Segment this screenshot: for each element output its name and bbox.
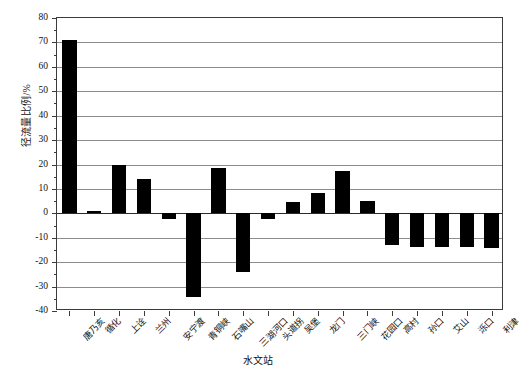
x-axis-tick: [343, 311, 344, 316]
y-axis-tick-label: 0: [22, 207, 48, 217]
x-axis-tick: [144, 311, 145, 316]
y-axis-tick-label: -10: [22, 232, 48, 242]
x-axis-title: 水文站: [0, 352, 516, 367]
x-axis-tick: [367, 311, 368, 316]
bar: [112, 165, 126, 213]
x-axis-tick: [243, 311, 244, 316]
x-axis-tick: [94, 311, 95, 316]
bar: [484, 213, 498, 248]
x-axis-category-label: 孙口: [426, 316, 446, 336]
x-axis-category-label: 艾山: [451, 316, 471, 336]
x-axis-tick: [417, 311, 418, 316]
x-axis-category-label: 石嘴山: [230, 316, 256, 342]
bar: [87, 211, 101, 213]
x-axis-category-label: 循化: [104, 316, 124, 336]
bar: [360, 201, 374, 213]
bars-layer: [57, 18, 502, 309]
bar: [286, 202, 300, 214]
bar: [385, 213, 399, 245]
x-axis-tick: [119, 311, 120, 316]
x-axis-category-label: 利津: [501, 316, 521, 336]
x-axis-tick: [492, 311, 493, 316]
x-axis-tick: [467, 311, 468, 316]
x-axis-tick: [69, 311, 70, 316]
x-axis-category-label: 三门峡: [354, 316, 380, 342]
bar: [62, 40, 76, 213]
y-axis-tick-label: 80: [22, 12, 48, 22]
y-axis-tick-label: -40: [22, 305, 48, 315]
plot-area: [56, 17, 503, 310]
bar: [236, 213, 250, 272]
bar: [211, 168, 225, 213]
x-axis-tick: [442, 311, 443, 316]
y-axis-tick: [52, 311, 57, 312]
bar: [186, 213, 200, 297]
x-axis-category-label: 青铜峡: [205, 316, 231, 342]
y-axis-tick-label: 60: [22, 61, 48, 71]
x-axis-category-label: 泺口: [476, 316, 496, 336]
y-axis-tick-label: 70: [22, 36, 48, 46]
x-axis-tick: [218, 311, 219, 316]
x-axis-category-label: 兰州: [153, 316, 173, 336]
x-axis-category-label: 高村: [402, 316, 422, 336]
x-axis-tick: [194, 311, 195, 316]
x-axis-category-label: 安宁渡: [181, 316, 207, 342]
x-axis-tick: [293, 311, 294, 316]
x-axis-tick: [392, 311, 393, 316]
y-axis-tick-label: -30: [22, 281, 48, 291]
x-axis-tick: [268, 311, 269, 316]
bar: [335, 171, 349, 213]
y-axis-tick-label: 30: [22, 134, 48, 144]
x-axis-tick: [318, 311, 319, 316]
x-axis-category-label: 上诠: [128, 316, 148, 336]
bar: [162, 213, 176, 218]
bar: [137, 179, 151, 214]
y-axis-tick-label: 10: [22, 183, 48, 193]
bar: [460, 213, 474, 246]
y-axis-tick-label: 40: [22, 110, 48, 120]
x-axis-tick: [169, 311, 170, 316]
bar: [311, 193, 325, 213]
y-axis-tick-label: -20: [22, 256, 48, 266]
bar: [435, 213, 449, 246]
bar: [261, 213, 275, 219]
bar: [410, 213, 424, 246]
x-axis-category-label: 吴堡: [302, 316, 322, 336]
x-axis-category-label: 龙门: [327, 316, 347, 336]
y-axis-tick-label: 20: [22, 159, 48, 169]
y-axis-tick-label: 50: [22, 85, 48, 95]
